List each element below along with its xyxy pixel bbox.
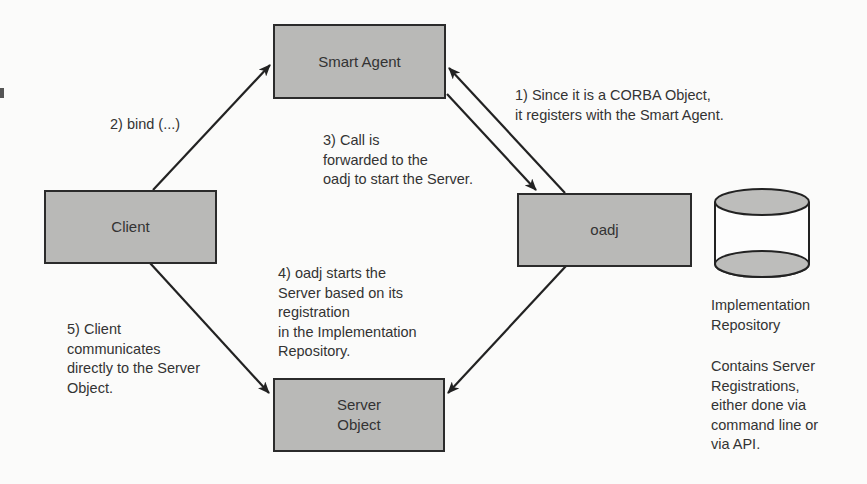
step-2-label: 2) bind (...) (110, 115, 180, 135)
smart-agent-label: Smart Agent (318, 52, 401, 72)
repository-note: Contains Server Registrations, either do… (711, 357, 818, 455)
arrow-start (448, 266, 566, 393)
step-1-label: 1) Since it is a CORBA Object, it regist… (515, 86, 724, 125)
repository-cylinder-icon (715, 189, 809, 277)
client-node: Client (44, 190, 217, 264)
step-4-label: 4) oadj starts the Server based on its r… (278, 264, 417, 362)
oadj-node: oadj (517, 193, 692, 267)
oadj-label: oadj (590, 220, 618, 240)
smart-agent-node: Smart Agent (273, 24, 446, 99)
client-label: Client (111, 217, 149, 237)
step-3-label: 3) Call is forwarded to the oadj to star… (323, 131, 473, 190)
server-object-node: Server Object (273, 378, 445, 452)
repository-label: Implementation Repository (711, 296, 810, 335)
server-object-label: Server Object (337, 395, 381, 435)
step-5-label: 5) Client communicates directly to the S… (67, 320, 200, 398)
